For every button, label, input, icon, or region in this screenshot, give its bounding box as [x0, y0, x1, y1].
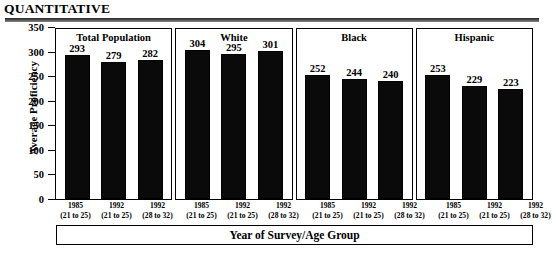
bar-group: 293279282: [59, 47, 168, 199]
bar-rect[interactable]: [258, 51, 283, 199]
x-tick-year: 1992: [263, 201, 304, 211]
x-tick-group: 1985(21 to 25)1992(21 to 25)1992(28 to 3…: [307, 201, 430, 225]
bar-item[interactable]: 301: [258, 47, 283, 199]
bar-item[interactable]: 282: [138, 47, 163, 199]
bar-item[interactable]: 252: [305, 47, 330, 199]
y-axis-tick-label: 300: [28, 47, 48, 59]
x-tick-age: (21 to 25): [433, 211, 474, 221]
y-axis-tick-mark: [48, 199, 55, 200]
bar-value-label: 295: [213, 42, 254, 53]
x-tick-age: (21 to 25): [474, 211, 515, 221]
y-axis-tick-mark: [48, 150, 55, 151]
bar-rect[interactable]: [462, 86, 487, 199]
x-tick-group: 1985(21 to 25)1992(21 to 25)1992(28 to 3…: [55, 201, 178, 225]
panel-title: Black: [297, 32, 412, 43]
x-axis-tick-label: 1992(28 to 32): [515, 201, 556, 225]
y-axis-tick: 200: [28, 96, 55, 108]
bar-rect[interactable]: [378, 81, 403, 199]
chart-panel-black: Black252244240: [296, 28, 413, 200]
bar-value-label: 223: [490, 77, 531, 88]
bar-group: 253229223: [420, 47, 529, 199]
y-axis-tick-mark: [48, 76, 55, 77]
y-axis-tick-mark: [48, 101, 55, 102]
y-axis-tick: 250: [28, 71, 55, 83]
x-axis-tick-label: 1992(21 to 25): [348, 201, 389, 225]
x-axis-tick-label: 1992(28 to 32): [137, 201, 178, 225]
bar-rect[interactable]: [65, 55, 90, 199]
y-axis-tick: 150: [28, 120, 55, 132]
bar-rect[interactable]: [185, 50, 210, 199]
bar-rect[interactable]: [498, 89, 523, 199]
bar-item[interactable]: 244: [342, 47, 367, 199]
panel-title: Hispanic: [417, 32, 532, 43]
bar-item[interactable]: 279: [101, 47, 126, 199]
y-axis-tick-label: 0: [39, 194, 48, 206]
x-tick-age: (28 to 32): [137, 211, 178, 221]
x-tick-year: 1985: [55, 201, 96, 211]
chart-panel-hispanic: Hispanic253229223: [416, 28, 533, 200]
x-axis-title: Year of Survey/Age Group: [229, 229, 359, 241]
bar-rect[interactable]: [138, 60, 163, 199]
y-axis-tick-label: 100: [28, 145, 48, 157]
x-tick-age: (21 to 25): [55, 211, 96, 221]
y-axis-tick-label: 50: [34, 169, 49, 181]
bar-item[interactable]: 253: [425, 47, 450, 199]
bar-item[interactable]: 304: [185, 47, 210, 199]
panel-row: Total Population293279282White304295301B…: [55, 28, 533, 200]
bar-item[interactable]: 229: [462, 47, 487, 199]
bar-value-label: 279: [93, 50, 134, 61]
x-tick-group: 1985(21 to 25)1992(21 to 25)1992(28 to 3…: [181, 201, 304, 225]
x-axis-tick-label: 1992(21 to 25): [474, 201, 515, 225]
panel-title: Total Population: [56, 32, 171, 43]
y-axis: 050100150200250300350: [18, 24, 55, 204]
bar-value-label: 304: [177, 38, 218, 49]
bar-item[interactable]: 223: [498, 47, 523, 199]
bar-value-label: 253: [417, 63, 458, 74]
bar-rect[interactable]: [342, 79, 367, 199]
x-axis-title-box: Year of Survey/Age Group: [56, 225, 533, 245]
bar-rect[interactable]: [425, 75, 450, 199]
y-axis-tick: 0: [39, 194, 55, 206]
x-tick-group: 1985(21 to 25)1992(21 to 25)1992(28 to 3…: [433, 201, 556, 225]
x-tick-age: (21 to 25): [307, 211, 348, 221]
bar-item[interactable]: 295: [221, 47, 246, 199]
y-axis-tick: 50: [34, 169, 56, 181]
x-axis-tick-label: 1992(28 to 32): [263, 201, 304, 225]
y-axis-tick-label: 150: [28, 120, 48, 132]
x-tick-year: 1992: [137, 201, 178, 211]
y-axis-tick-label: 350: [28, 22, 48, 34]
x-tick-age: (28 to 32): [263, 211, 304, 221]
x-tick-age: (21 to 25): [348, 211, 389, 221]
y-axis-tick-label: 200: [28, 96, 48, 108]
bar-item[interactable]: 240: [378, 47, 403, 199]
y-axis-tick-mark: [48, 174, 55, 175]
x-tick-year: 1992: [389, 201, 430, 211]
x-tick-year: 1992: [96, 201, 137, 211]
bar-rect[interactable]: [101, 62, 126, 199]
bar-chart: Average Proficiency 05010015020025030035…: [0, 24, 545, 259]
bar-value-label: 252: [297, 63, 338, 74]
y-axis-tick: 300: [28, 47, 55, 59]
y-axis-tick-label: 250: [28, 71, 48, 83]
bar-value-label: 293: [57, 43, 98, 54]
x-tick-year: 1992: [474, 201, 515, 211]
x-tick-age: (21 to 25): [96, 211, 137, 221]
bar-value-label: 229: [454, 74, 495, 85]
bar-value-label: 244: [334, 67, 375, 78]
x-tick-age: (28 to 32): [389, 211, 430, 221]
x-tick-year: 1992: [348, 201, 389, 211]
y-axis-tick-mark: [48, 27, 55, 28]
bar-rect[interactable]: [305, 75, 330, 199]
x-tick-age: (21 to 25): [181, 211, 222, 221]
bar-rect[interactable]: [221, 54, 246, 199]
header-divider: [5, 18, 539, 22]
bar-group: 304295301: [179, 47, 288, 199]
y-axis-tick-mark: [48, 125, 55, 126]
x-tick-year: 1992: [515, 201, 556, 211]
section-header: QUANTITATIVE: [4, 1, 541, 23]
page-title: QUANTITATIVE: [4, 1, 110, 17]
x-tick-age: (21 to 25): [222, 211, 263, 221]
bar-item[interactable]: 293: [65, 47, 90, 199]
x-axis-tick-labels: 1985(21 to 25)1992(21 to 25)1992(28 to 3…: [55, 201, 533, 225]
y-axis-tick-mark: [48, 52, 55, 53]
